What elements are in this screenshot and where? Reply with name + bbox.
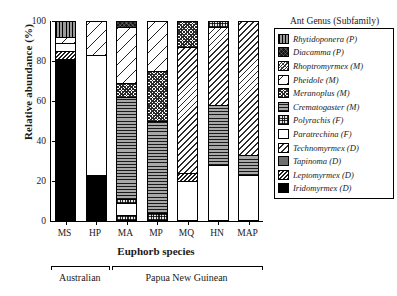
bar-segment xyxy=(86,175,107,221)
legend-swatch-crematogaster xyxy=(278,102,289,112)
group-bracket-tick xyxy=(262,266,263,270)
group-label: Australian xyxy=(59,272,101,283)
legend-item-label: Leptomyrmex (D) xyxy=(293,170,354,180)
legend-item-label: Rhytidoponera (P) xyxy=(293,34,357,44)
legend-item-label: Diacamma (P) xyxy=(293,47,344,57)
bars-container xyxy=(51,21,263,221)
x-axis-tick-label: HN xyxy=(210,228,224,238)
x-axis-tick-labels: MSHPMAMPMQHNMAP xyxy=(50,228,262,242)
bar-segment xyxy=(177,173,198,181)
x-axis-tick-mark xyxy=(96,221,97,225)
x-axis-tick-label: MA xyxy=(118,228,133,238)
bar-segment xyxy=(147,121,168,213)
legend-item[interactable]: Meranoplus (M) xyxy=(278,86,391,100)
plot-area xyxy=(50,21,263,222)
legend-item-label: Meranoplus (M) xyxy=(293,88,350,98)
y-axis-tick-label: 80 xyxy=(12,56,46,66)
legend-swatch-meranoplus xyxy=(278,88,289,98)
legend-item[interactable]: Paratrechina (F) xyxy=(278,127,391,141)
legend-item[interactable]: Technomyrmex (D) xyxy=(278,141,391,155)
x-axis-tick-label: MQ xyxy=(179,228,194,238)
legend-item-label: Crematogaster (M) xyxy=(293,102,359,112)
legend-item[interactable]: Tapinoma (D) xyxy=(278,154,391,168)
bar-segment xyxy=(177,21,198,47)
bar-segment xyxy=(55,51,76,59)
bar-ma[interactable] xyxy=(116,21,137,221)
bar-ms[interactable] xyxy=(55,21,76,221)
legend-swatch-polyrachis xyxy=(278,115,289,125)
y-axis-tick-label: 60 xyxy=(12,96,46,106)
bar-map[interactable] xyxy=(238,21,259,221)
legend-item[interactable]: Iridomyrmex (D) xyxy=(278,182,391,196)
bar-segment xyxy=(147,21,168,71)
bar-hn[interactable] xyxy=(208,21,229,221)
y-axis-tick-label: 20 xyxy=(12,176,46,186)
x-axis-tick-label: MAP xyxy=(237,228,258,238)
y-axis-tick-label: 0 xyxy=(12,216,46,226)
chart-figure: Relative abundance (%) 020406080100 MSHP… xyxy=(0,0,397,296)
bar-hp[interactable] xyxy=(86,21,107,221)
bar-mp[interactable] xyxy=(147,21,168,221)
legend-item-label: Technomyrmex (D) xyxy=(293,143,359,153)
bar-segment xyxy=(116,27,137,83)
bar-segment xyxy=(116,83,137,97)
x-axis-tick-mark xyxy=(157,221,158,225)
group-bracket-tick xyxy=(109,266,110,270)
bar-segment xyxy=(238,175,259,221)
legend-item[interactable]: Polyrachis (F) xyxy=(278,114,391,128)
legend-item[interactable]: Leptomyrmex (D) xyxy=(278,168,391,182)
legend-item[interactable]: Rhytidoponera (P) xyxy=(278,32,391,46)
x-axis-tick-label: MP xyxy=(149,228,163,238)
legend-swatch-pheidole xyxy=(278,75,289,85)
bar-segment xyxy=(55,59,76,221)
legend-item-label: Rhoptromyrmex (M) xyxy=(293,61,363,71)
legend-item[interactable]: Diacamma (P) xyxy=(278,46,391,60)
x-axis-title: Euphorb species xyxy=(50,245,262,257)
legend-item-label: Pheidole (M) xyxy=(293,75,339,85)
bar-segment xyxy=(86,21,107,55)
legend-title: Ant Genus (Subfamily) xyxy=(272,16,397,26)
legend-item[interactable]: Crematogaster (M) xyxy=(278,100,391,114)
legend-swatch-diacamma xyxy=(278,47,289,57)
legend: Rhytidoponera (P)Diacamma (P)Rhoptromyrm… xyxy=(274,28,394,199)
x-axis-tick-mark xyxy=(66,221,67,225)
x-axis-tick-label: MS xyxy=(58,228,72,238)
x-axis-tick-mark xyxy=(218,221,219,225)
bar-segment xyxy=(238,21,259,155)
bar-segment xyxy=(55,21,76,37)
y-axis-tick-label: 40 xyxy=(12,136,46,146)
group-bracket-line xyxy=(51,266,110,267)
y-axis: 020406080100 xyxy=(6,0,46,296)
bar-mq[interactable] xyxy=(177,21,198,221)
bar-segment xyxy=(116,97,137,199)
bar-segment xyxy=(208,105,229,165)
bar-segment xyxy=(177,47,198,173)
bar-segment xyxy=(208,165,229,221)
group-label: Papua New Guinean xyxy=(145,272,227,283)
legend-swatch-leptomyrmex xyxy=(278,170,289,180)
legend-item-label: Tapinoma (D) xyxy=(293,156,341,166)
legend-item[interactable]: Rhoptromyrmex (M) xyxy=(278,59,391,73)
legend-swatch-technomyrmex xyxy=(278,143,289,153)
legend-item-label: Iridomyrmex (D) xyxy=(293,183,351,193)
y-axis-tick-label: 100 xyxy=(12,16,46,26)
bar-segment xyxy=(147,213,168,221)
x-axis-tick-mark xyxy=(188,221,189,225)
x-axis-tick-label: HP xyxy=(89,228,101,238)
bar-segment xyxy=(238,155,259,175)
legend-swatch-rhoptromyrmex xyxy=(278,61,289,71)
legend-item-label: Polyrachis (F) xyxy=(293,115,343,125)
bar-segment xyxy=(208,27,229,105)
bar-segment xyxy=(147,71,168,121)
group-bracket-line xyxy=(112,266,262,267)
legend-item-label: Paratrechina (F) xyxy=(293,129,352,139)
x-axis-tick-mark xyxy=(127,221,128,225)
x-axis-tick-mark xyxy=(249,221,250,225)
bar-segment xyxy=(86,55,107,175)
group-bracket-tick xyxy=(112,266,113,270)
legend-item[interactable]: Pheidole (M) xyxy=(278,73,391,87)
bar-segment xyxy=(116,203,137,215)
legend-swatch-tapinoma xyxy=(278,156,289,166)
legend-swatch-rhytidoponera xyxy=(278,34,289,44)
legend-swatch-iridomyrmex xyxy=(278,183,289,193)
